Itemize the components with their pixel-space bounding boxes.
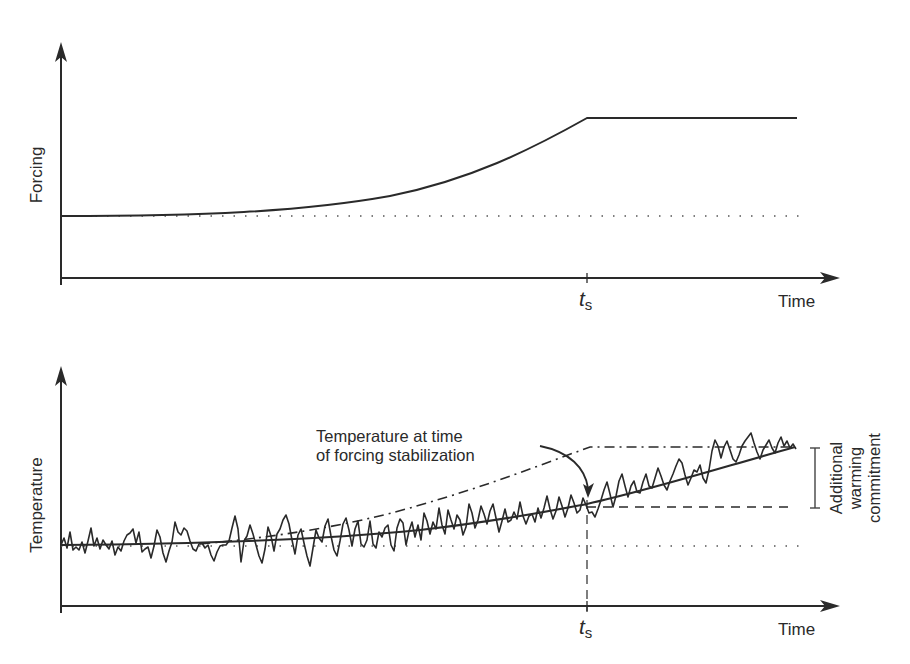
annotation-arrow-curve: [540, 446, 588, 488]
annotation-line-1: Temperature at time: [316, 427, 463, 445]
annotation-arrow-head-icon: [583, 483, 594, 498]
forcing-curve: [61, 118, 797, 216]
forcing-x-label: Time: [778, 292, 815, 311]
forcing-ts-label: ts: [579, 287, 592, 313]
bracket-label-line-1: Additional: [827, 442, 845, 514]
forcing-y-label: Forcing: [27, 147, 46, 204]
bracket-label-line-3: commitment: [865, 433, 883, 523]
bracket-label-line-2: warming: [846, 447, 864, 510]
temperature-x-label: Time: [778, 620, 815, 639]
figure: Forcing ts Time: [0, 0, 910, 664]
annotation-line-2: of forcing stabilization: [316, 446, 475, 464]
temperature-y-label: Temperature: [27, 457, 46, 552]
temperature-ts-label: ts: [579, 615, 592, 641]
forcing-panel: Forcing ts Time: [27, 42, 840, 313]
temperature-panel: Temperature Temperature at time of forci…: [27, 366, 883, 641]
warming-commitment-bracket: [810, 448, 820, 508]
